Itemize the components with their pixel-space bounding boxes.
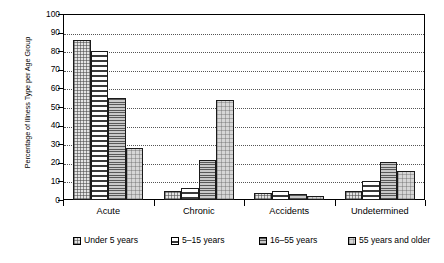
bar bbox=[272, 191, 290, 200]
bar bbox=[164, 191, 182, 200]
legend-label: Under 5 years bbox=[84, 236, 138, 245]
bar bbox=[73, 40, 91, 200]
bar bbox=[254, 193, 272, 200]
x-category-label: Accidents bbox=[244, 206, 335, 216]
legend-item[interactable]: Under 5 years bbox=[73, 236, 138, 245]
legend-item[interactable]: 55 years and older bbox=[348, 236, 430, 245]
bar bbox=[199, 160, 217, 200]
bar bbox=[289, 194, 307, 201]
y-tick-label: 0 bbox=[20, 196, 60, 204]
x-category-label: Chronic bbox=[154, 206, 245, 216]
y-tick-label: 100 bbox=[20, 10, 60, 18]
y-tick-label: 40 bbox=[20, 121, 60, 129]
bar bbox=[108, 98, 126, 200]
legend-item[interactable]: 16–55 years bbox=[259, 236, 317, 245]
bar bbox=[91, 51, 109, 200]
legend-label: 55 years and older bbox=[359, 236, 430, 245]
y-tick-label: 30 bbox=[20, 140, 60, 148]
bar bbox=[362, 181, 380, 200]
legend-label: 5–15 years bbox=[182, 236, 225, 245]
legend-label: 16–55 years bbox=[270, 236, 317, 245]
y-tick-label: 90 bbox=[20, 28, 60, 36]
bar bbox=[380, 162, 398, 200]
x-category-label: Undetermined bbox=[335, 206, 426, 216]
chart-legend: Under 5 years5–15 years16–55 years55 yea… bbox=[63, 236, 425, 252]
y-tick-label: 70 bbox=[20, 65, 60, 73]
x-tick-mark bbox=[425, 200, 426, 206]
y-tick-label: 80 bbox=[20, 47, 60, 55]
y-tick-label: 50 bbox=[20, 103, 60, 111]
y-tick-label: 60 bbox=[20, 84, 60, 92]
bar bbox=[345, 191, 363, 200]
bars-layer bbox=[63, 14, 425, 200]
legend-swatch-icon bbox=[171, 237, 179, 245]
bar-chart: Percentage of Illness Type per Age Group… bbox=[0, 0, 444, 263]
legend-swatch-icon bbox=[348, 237, 356, 245]
bar bbox=[397, 171, 415, 200]
bar bbox=[181, 188, 199, 200]
legend-swatch-icon bbox=[259, 237, 267, 245]
legend-item[interactable]: 5–15 years bbox=[171, 236, 225, 245]
y-tick-label: 10 bbox=[20, 177, 60, 185]
y-tick-label: 20 bbox=[20, 158, 60, 166]
bar bbox=[216, 100, 234, 200]
bar bbox=[126, 148, 144, 200]
bar bbox=[307, 196, 325, 200]
x-category-label: Acute bbox=[63, 206, 154, 216]
legend-swatch-icon bbox=[73, 237, 81, 245]
